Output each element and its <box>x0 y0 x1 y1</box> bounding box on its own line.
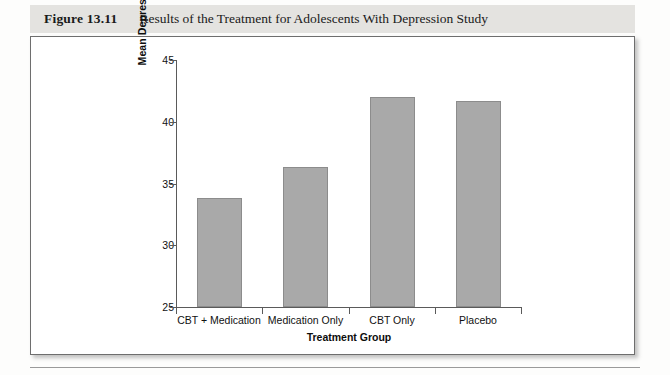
figure-caption-band: Figure 13.11 Results of the Treatment fo… <box>30 5 635 33</box>
figure-number: Figure 13.11 <box>44 11 117 27</box>
page-bottom-rule <box>30 367 640 368</box>
chart-frame <box>30 36 635 355</box>
figure-caption-text: Results of the Treatment for Adolescents… <box>139 11 488 27</box>
